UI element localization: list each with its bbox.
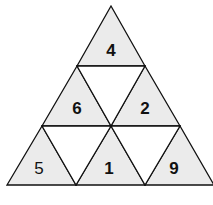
number-mid-right: 2 <box>140 99 149 118</box>
number-bottom-left: 5 <box>34 159 43 178</box>
number-top: 4 <box>106 41 116 60</box>
number-bottom-right: 9 <box>169 159 178 178</box>
number-bottom-center: 1 <box>104 159 113 178</box>
number-mid-left: 6 <box>72 99 81 118</box>
triangle-puzzle: 4 6 2 5 1 9 <box>0 0 213 205</box>
